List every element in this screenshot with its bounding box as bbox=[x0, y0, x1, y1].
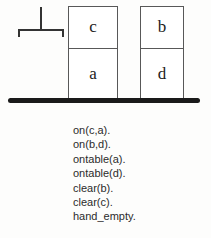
block-d: d bbox=[140, 48, 184, 100]
gripper-stem bbox=[40, 7, 42, 31]
table-surface bbox=[8, 98, 200, 103]
block-a: a bbox=[68, 48, 118, 100]
block-a-label: a bbox=[89, 65, 97, 82]
block-b-label: b bbox=[158, 18, 167, 35]
state-line: on(b,d). bbox=[73, 137, 203, 151]
state-line: clear(b). bbox=[73, 181, 203, 195]
gripper-bar bbox=[18, 29, 64, 31]
block-d-label: d bbox=[158, 65, 167, 82]
state-predicate-list: on(c,a). on(b,d). ontable(a). ontable(d)… bbox=[73, 123, 203, 224]
state-line: clear(c). bbox=[73, 195, 203, 209]
block-c: c bbox=[68, 6, 118, 49]
blocks-diagram: c a b d bbox=[0, 0, 211, 110]
state-line: on(c,a). bbox=[73, 123, 203, 137]
gripper-prong-left-icon bbox=[18, 29, 20, 37]
blocks-world-figure: c a b d on(c,a). on(b,d). ontable(a). on… bbox=[0, 0, 211, 238]
gripper-icon bbox=[18, 7, 65, 38]
state-line: ontable(a). bbox=[73, 152, 203, 166]
state-line: hand_empty. bbox=[73, 209, 203, 223]
gripper-prong-right-icon bbox=[62, 29, 64, 37]
state-line: ontable(d). bbox=[73, 166, 203, 180]
block-c-label: c bbox=[89, 18, 97, 35]
block-b: b bbox=[140, 6, 184, 49]
